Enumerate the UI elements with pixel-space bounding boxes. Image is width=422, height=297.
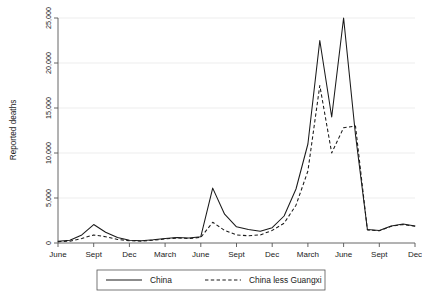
x-tick-label: Sept [228, 250, 245, 259]
y-tick-label: 0 [44, 241, 53, 245]
y-tick-label: 25,000 [44, 7, 53, 29]
y-tick-label: 15,000 [44, 97, 53, 119]
legend-label-china: China [150, 275, 172, 285]
x-tick-label: Sept [85, 250, 102, 259]
x-tick-label: Dec [265, 250, 279, 259]
data-series-group [58, 18, 415, 242]
chart-legend: China China less Guangxi [97, 270, 325, 290]
chart-container: 05,00010,00015,00020,00025,000 Reported … [0, 0, 422, 297]
series-line-china-less-guangxi [58, 86, 415, 242]
x-axis: JuneSeptDecMarchJuneSeptDecMarchJuneSept… [49, 243, 422, 259]
x-tick-label: Dec [408, 250, 422, 259]
x-tick-label: June [335, 250, 353, 259]
x-tick-label: June [192, 250, 210, 259]
x-tick-label: Dec [122, 250, 136, 259]
x-tick-label: June [49, 250, 67, 259]
x-tick-label: March [154, 250, 176, 259]
x-tick-label: Sept [371, 250, 388, 259]
y-axis-title: Reported deaths [9, 100, 18, 161]
y-tick-label: 10,000 [44, 142, 53, 164]
y-tick-label: 20,000 [44, 52, 53, 74]
y-tick-marks [54, 18, 58, 243]
y-tick-label: 5,000 [44, 189, 53, 207]
x-tick-label: March [297, 250, 319, 259]
y-axis: 05,00010,00015,00020,00025,000 Reported … [9, 7, 58, 245]
y-tick-labels: 05,00010,00015,00020,00025,000 [44, 7, 53, 245]
gridlines [58, 18, 415, 198]
legend-label-china-less-guangxi: China less Guangxi [249, 275, 322, 285]
line-chart: 05,00010,00015,00020,00025,000 Reported … [0, 0, 422, 297]
x-tick-marks [58, 243, 415, 247]
x-tick-labels: JuneSeptDecMarchJuneSeptDecMarchJuneSept… [49, 250, 422, 259]
series-line-china [58, 18, 415, 241]
